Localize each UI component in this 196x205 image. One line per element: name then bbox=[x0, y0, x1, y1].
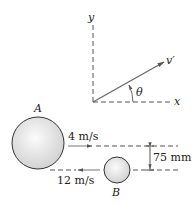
sphere-a bbox=[12, 117, 64, 169]
velocity-vector bbox=[93, 62, 164, 102]
collision-diagram bbox=[0, 0, 196, 205]
y-axis-label: y bbox=[88, 12, 94, 23]
sphere-b-label: B bbox=[112, 187, 120, 198]
sphere-a-label: A bbox=[34, 103, 42, 114]
speed-b-label: 12 m/s bbox=[57, 175, 94, 186]
velocity-label: v′ bbox=[166, 55, 175, 66]
x-axis-label: x bbox=[174, 96, 180, 107]
angle-label: θ bbox=[136, 87, 143, 98]
angle-arc bbox=[129, 85, 133, 102]
offset-label: 75 mm bbox=[153, 152, 191, 163]
speed-a-label: 4 m/s bbox=[68, 131, 98, 142]
sphere-b bbox=[104, 157, 130, 183]
